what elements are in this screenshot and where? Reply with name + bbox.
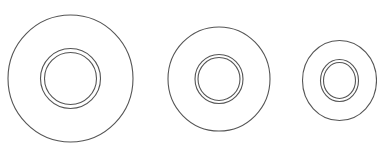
inner-ring-inner — [198, 58, 240, 101]
diagram-canvas — [0, 0, 377, 151]
inner-ring-outer — [321, 60, 359, 102]
outer-ring — [8, 15, 133, 142]
washer-medium — [168, 27, 270, 131]
concentric-washers-diagram — [0, 0, 377, 151]
inner-ring-outer — [41, 49, 101, 109]
inner-ring-outer — [195, 55, 243, 104]
washer-small — [303, 41, 377, 121]
inner-ring-inner — [45, 53, 97, 105]
outer-ring — [168, 27, 270, 131]
inner-ring-inner — [324, 63, 356, 99]
outer-ring — [303, 41, 377, 121]
washer-large — [8, 15, 133, 142]
